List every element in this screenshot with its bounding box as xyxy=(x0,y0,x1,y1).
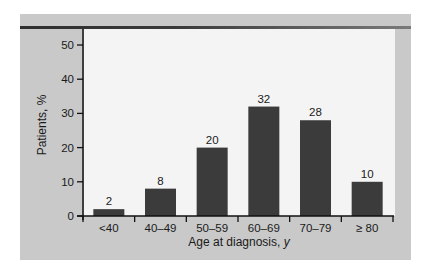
y-axis-title: Patients, % xyxy=(35,94,49,155)
bar xyxy=(197,148,228,216)
bar xyxy=(300,120,331,216)
bar-value-label: 2 xyxy=(106,195,112,207)
x-tick-label: <40 xyxy=(99,222,119,234)
bar xyxy=(352,182,383,216)
bars-group: 2820322810 xyxy=(93,93,382,216)
x-tick-label: 60–69 xyxy=(248,222,280,234)
y-tick-label: 10 xyxy=(61,176,74,188)
x-tick-label: 40–49 xyxy=(145,222,177,234)
bar-value-label: 20 xyxy=(206,134,219,146)
bar-value-label: 10 xyxy=(361,168,374,180)
bar-chart: 2820322810 <4040–4950–5960–6970–79≥ 8001… xyxy=(0,0,425,273)
bar xyxy=(248,107,279,216)
y-tick-label: 40 xyxy=(61,73,74,85)
x-tick-label: 50–59 xyxy=(196,222,228,234)
y-tick-label: 20 xyxy=(61,142,74,154)
bar-value-label: 28 xyxy=(309,106,322,118)
y-tick-label: 50 xyxy=(61,39,74,51)
x-tick-label: ≥ 80 xyxy=(356,222,378,234)
x-axis-title: Age at diagnosis, y xyxy=(188,235,290,249)
y-tick-label: 30 xyxy=(61,107,74,119)
x-tick-label: 70–79 xyxy=(300,222,332,234)
bar-value-label: 32 xyxy=(257,93,270,105)
y-tick-label: 0 xyxy=(68,210,74,222)
bar xyxy=(145,189,176,216)
bar-value-label: 8 xyxy=(157,175,163,187)
bar xyxy=(93,209,124,216)
